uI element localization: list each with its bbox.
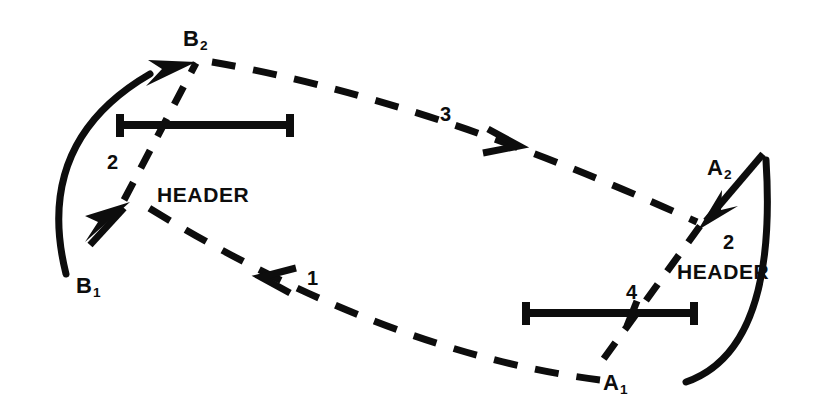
header-label-left: HEADER [157,184,249,205]
node-label-B2: B2 [183,28,208,50]
segment-number-3: 3 [440,104,451,124]
arrowhead-b2-icon [146,60,196,86]
header-label-right: HEADER [677,261,769,282]
bar-right [524,301,696,326]
segment-number-2-left: 2 [107,152,118,172]
solid-arc-b1-to-b2 [59,74,150,274]
node-label-A1: A1 [603,372,628,394]
bar-right-crossing-tick [627,301,637,326]
dashed-path-1-a1-to-vertex [136,200,600,380]
arrowhead-right-vertex-icon [698,190,738,230]
arrowhead-left-vertex-icon [85,202,130,242]
dashed-path-4-right-vertex-to-a1 [597,226,700,368]
bar-left [118,114,292,137]
node-label-A2: A2 [707,157,732,179]
segment-number-2-right: 2 [723,232,734,252]
dashed-path-3-b2-to-a2 [212,62,697,222]
segment-number-4: 4 [626,282,637,302]
segment-number-1: 1 [307,268,318,288]
node-label-B1: B1 [76,275,101,297]
diagram-canvas: B2 B1 A2 A1 HEADER HEADER 2 2 3 1 4 [0,0,817,417]
diagram-vector-layer [0,0,817,417]
